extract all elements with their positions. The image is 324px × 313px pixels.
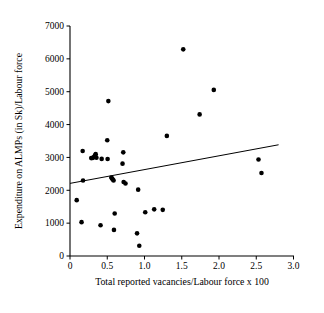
- data-point: [94, 155, 99, 160]
- scatter-plot-figure: 01000200030004000500060007000 00.51.01.5…: [0, 0, 324, 313]
- y-tick-label: 7000: [45, 21, 64, 31]
- data-point: [105, 157, 110, 162]
- data-point: [165, 134, 170, 139]
- data-point: [74, 198, 79, 203]
- data-point: [111, 178, 116, 183]
- x-tick-label: 0: [68, 261, 73, 271]
- data-point: [121, 150, 126, 155]
- chart-canvas: 01000200030004000500060007000 00.51.01.5…: [0, 0, 324, 313]
- data-point: [259, 171, 264, 176]
- data-point: [99, 157, 104, 162]
- data-point: [112, 211, 117, 216]
- x-tick-label: 3.0: [288, 261, 300, 271]
- data-point: [181, 47, 186, 52]
- data-point: [135, 231, 140, 236]
- y-tick-label: 0: [59, 251, 64, 261]
- data-point: [211, 88, 216, 93]
- data-point: [106, 99, 111, 104]
- x-tick-label: 0.5: [101, 261, 113, 271]
- data-point: [80, 149, 85, 154]
- x-axis-tick-labels: 00.51.01.52.02.53.0: [68, 261, 300, 271]
- data-point: [136, 187, 141, 192]
- y-tick-label: 1000: [45, 218, 64, 228]
- data-point: [256, 157, 261, 162]
- x-tick-label: 2.0: [213, 261, 225, 271]
- data-point: [143, 210, 148, 215]
- regression-trend-line: [70, 145, 279, 184]
- data-point: [112, 228, 117, 233]
- x-tick-label: 2.5: [250, 261, 262, 271]
- y-tick-label: 3000: [45, 153, 64, 163]
- data-point: [137, 244, 142, 249]
- data-point: [197, 112, 202, 117]
- y-axis-title: Expenditure on ALMPs (in Sk)/Labour forc…: [13, 52, 25, 229]
- data-point: [160, 208, 165, 213]
- y-axis-tick-labels: 01000200030004000500060007000: [45, 21, 64, 261]
- y-tick-label: 4000: [45, 120, 64, 130]
- x-tick-label: 1.0: [139, 261, 151, 271]
- x-axis-title: Total reported vacancies/Labour force x …: [95, 276, 269, 287]
- y-tick-label: 2000: [45, 186, 64, 196]
- data-point: [105, 138, 110, 143]
- y-tick-label: 5000: [45, 87, 64, 97]
- data-point: [120, 161, 125, 166]
- data-points-layer: [74, 47, 263, 248]
- x-tick-label: 1.5: [176, 261, 188, 271]
- data-point: [152, 207, 157, 212]
- data-point: [98, 223, 103, 228]
- data-point: [123, 181, 128, 186]
- y-tick-label: 6000: [45, 54, 64, 64]
- data-point: [79, 220, 84, 225]
